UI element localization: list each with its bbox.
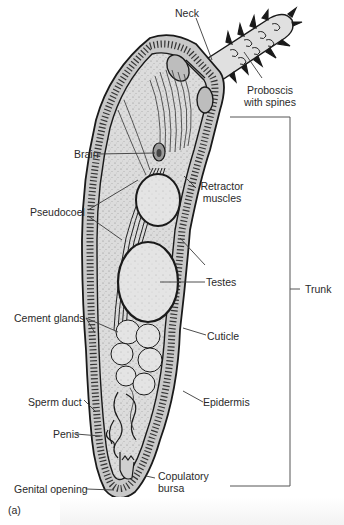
label-proboscis-line1: Proboscis [235,84,305,96]
trunk-bracket [230,117,300,486]
label-cuticle: Cuticle [207,330,239,342]
acanthocephalan-diagram [0,0,344,525]
label-pseudocoel: Pseudocoel [30,206,85,218]
label-trunk: Trunk [305,283,331,295]
label-retractor-line2: muscles [196,192,248,204]
label-retractor-line1: Retractor [196,180,248,192]
label-genital-opening: Genital opening [14,483,88,495]
label-copulatory-line1: Copulatory [158,470,209,482]
label-neck: Neck [175,7,199,19]
label-cement-glands: Cement glands [14,312,85,324]
label-penis: Penis [53,428,79,440]
panel-label: (a) [8,504,21,516]
bottom-shade [60,497,344,525]
label-retractor-muscles: Retractor muscles [196,180,248,204]
label-brain: Brain [74,148,99,160]
label-proboscis-line2: with spines [235,96,305,108]
label-copulatory-bursa: Copulatory bursa [158,470,209,494]
label-proboscis: Proboscis with spines [235,84,305,108]
label-copulatory-line2: bursa [158,482,209,494]
brain [153,143,165,161]
label-epidermis: Epidermis [203,396,250,408]
label-testes: Testes [206,276,236,288]
label-sperm-duct: Sperm duct [28,396,82,408]
